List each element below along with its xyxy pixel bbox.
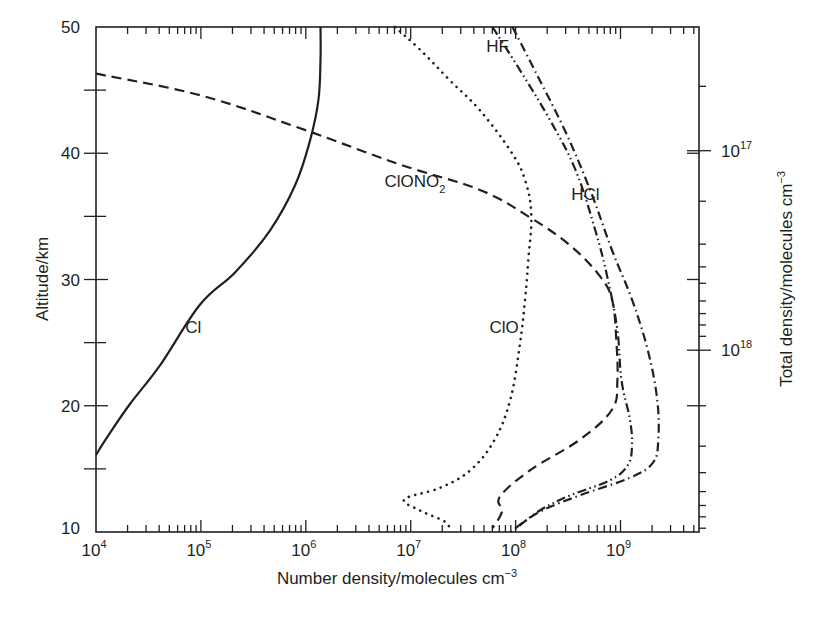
curve-label-clo: ClO [489,318,518,337]
curve-clono2 [96,74,618,529]
x-axis-title-text: Number density/molecules cm [277,569,505,588]
x-tick-label: 105 [186,538,211,560]
y-axis-title: Altitude/km [33,237,52,321]
y-axis-title-text: Altitude/km [33,237,52,321]
y-tick-label: 30 [61,271,80,290]
y-tick-label: 50 [61,18,80,37]
curve-clo [395,27,531,531]
plot-border [96,27,699,532]
curve-label-cl: Cl [185,318,201,337]
y-tick-label: 20 [61,397,80,416]
x-tick-label: 106 [291,538,316,560]
x-tick-label: 109 [606,538,631,560]
curve-label-hcl: HCl [571,185,599,204]
y-tick-label: 10 [61,519,80,538]
y2-tick-label: 1018 [721,338,752,360]
x-tick-label: 108 [501,538,526,560]
curve-hcl [510,27,658,532]
altitude-profile-chart: 104105106107108109102030405010171018 ClC… [0,0,825,622]
x-tick-label: 104 [81,538,106,560]
x-axis-title: Number density/molecules cm−3 [277,567,517,588]
curve-label-hf: HF [486,37,509,56]
y2-axis-title-text: Total density/molecules cm [777,184,796,387]
y2-tick-label: 1017 [721,139,752,161]
curve-labels: ClClONO2ClOHFHCl [185,37,599,336]
curve-label-clono2: ClONO2 [384,172,445,195]
y2-axis-title: Total density/molecules cm−3 [775,171,796,387]
axis-ticks [84,27,711,532]
axis-tick-labels: 104105106107108109102030405010171018 [61,18,752,560]
x-axis-title-superscript: −3 [505,567,518,579]
curves [96,27,659,532]
plot-frame [96,27,699,532]
curve-hf [493,27,633,530]
y-tick-label: 40 [61,144,80,163]
x-tick-label: 107 [396,538,421,560]
y2-axis-title-superscript: −3 [775,171,787,184]
curve-cl [96,27,321,455]
